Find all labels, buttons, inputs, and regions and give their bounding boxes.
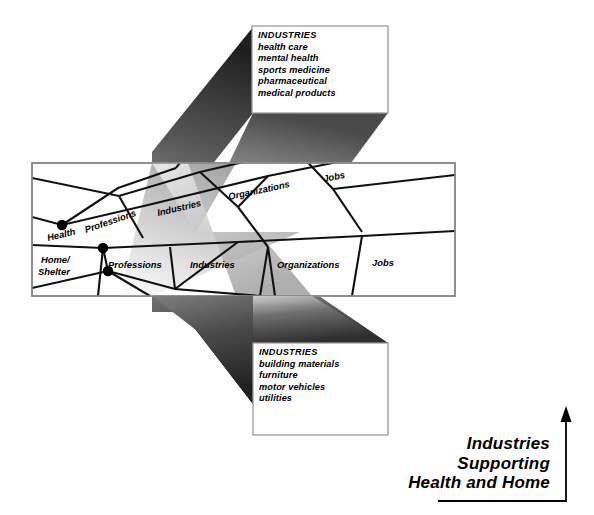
lower-box-item: building materials	[259, 359, 387, 371]
caption-line-3: Health and Home	[408, 473, 550, 493]
upper-box-content: INDUSTRIES health care mental health spo…	[258, 30, 386, 100]
network-label-professions-lower: Professions	[108, 259, 162, 270]
network-label-organizations-lower: Organizations	[277, 259, 340, 270]
caption-arrow-head	[561, 406, 572, 422]
lower-industries-box: INDUSTRIES building materials furniture …	[253, 343, 388, 435]
upper-industries-box: INDUSTRIES health care mental health spo…	[252, 26, 388, 113]
upper-box-item: mental health	[258, 53, 386, 65]
lower-box-item: utilities	[259, 393, 387, 405]
lower-box-item: furniture	[259, 370, 387, 382]
lower-box-content: INDUSTRIES building materials furniture …	[259, 347, 387, 405]
network-label-jobs-lower: Jobs	[372, 257, 394, 268]
network-label-home: Home/	[41, 254, 71, 265]
network-label-shelter: Shelter	[38, 266, 71, 277]
upper-box-item: health care	[258, 42, 386, 54]
lower-beam-front-right	[253, 296, 388, 343]
network-node	[98, 243, 108, 253]
figure-caption: Industries Supporting Health and Home	[408, 434, 550, 493]
caption-line-1: Industries	[408, 434, 550, 454]
lower-box-item: motor vehicles	[259, 382, 387, 394]
lower-beam-front-left	[152, 296, 253, 404]
network-label-industries-lower: Industries	[190, 259, 235, 270]
lower-box-heading: INDUSTRIES	[259, 347, 387, 359]
upper-box-item: sports medicine	[258, 65, 386, 77]
upper-box-item: medical products	[258, 88, 386, 100]
upper-box-heading: INDUSTRIES	[258, 30, 386, 42]
caption-line-2: Supporting	[408, 454, 550, 474]
upper-box-item: pharmaceutical	[258, 76, 386, 88]
